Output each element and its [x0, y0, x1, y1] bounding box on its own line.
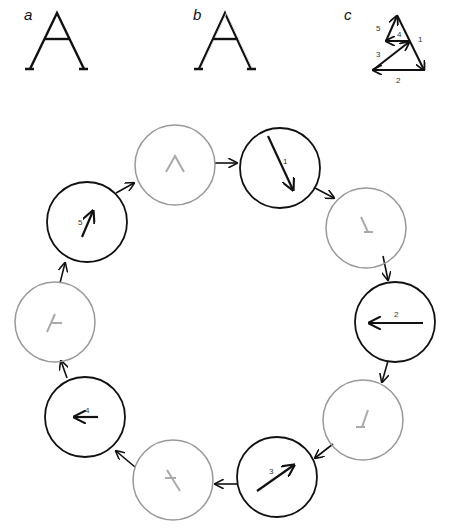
stroke-number: 1	[418, 35, 423, 44]
panel-a-label: a	[24, 6, 32, 23]
partial-shape-icon	[47, 314, 62, 332]
state-circle-stroke-5: 5	[47, 182, 127, 262]
stroke-arrow-icon	[257, 465, 294, 491]
partial-shape-icon	[356, 410, 368, 427]
panel-b: b	[193, 6, 256, 69]
letter-a-strokes-icon	[194, 13, 256, 69]
stroke-number: 5	[376, 24, 381, 33]
letter-a-drawing-diagram: a b c 1 2 3 4 5	[0, 0, 449, 528]
stroke-arrow-icon	[82, 211, 93, 237]
state-circle-stroke-1: 1	[240, 128, 320, 208]
state-circle-inactive	[323, 380, 403, 460]
stroke-number: 4	[85, 406, 90, 415]
stroke-number: 2	[396, 76, 401, 85]
state-circle-stroke-4: 4	[45, 377, 125, 457]
partial-shape-icon	[165, 470, 180, 491]
state-circle-inactive	[15, 282, 95, 362]
panel-c-label: c	[344, 6, 352, 23]
partial-shape-icon	[361, 217, 373, 232]
stroke-number: 4	[397, 30, 402, 39]
panel-b-label: b	[193, 6, 201, 23]
stroke-arrow-icon	[268, 136, 293, 190]
stroke-sequence-icon	[373, 15, 424, 70]
stroke-number: 1	[283, 157, 288, 166]
stroke-number: 3	[376, 50, 381, 59]
panel-a: a	[24, 6, 88, 69]
stroke-number: 2	[394, 310, 399, 319]
letter-a-icon	[25, 13, 88, 69]
stroke-number: 3	[269, 467, 274, 476]
panel-c: c 1 2 3 4 5	[344, 6, 424, 85]
state-circle-stroke-2: 2	[355, 282, 435, 362]
state-circle-inactive	[133, 440, 213, 520]
apex-shape-icon	[166, 156, 184, 172]
state-circle-inactive	[326, 188, 406, 268]
state-circle-stroke-3: 3	[237, 437, 317, 517]
state-circle-inactive	[135, 125, 215, 205]
stroke-number: 5	[78, 218, 83, 227]
cycle-connectors	[60, 163, 388, 484]
